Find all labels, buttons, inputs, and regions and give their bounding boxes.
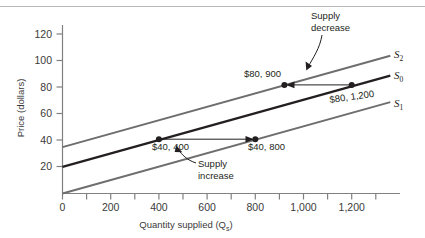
x-tick-label-400: 400: [150, 201, 168, 213]
y-tick-label-20: 20: [40, 160, 52, 172]
curve-S0: [63, 76, 391, 167]
curve-label-S2: S2: [394, 48, 404, 63]
data-point-label-40-400: $40, 400: [152, 141, 189, 152]
y-ticks: [57, 34, 63, 167]
y-tick-label-100: 100: [34, 54, 52, 66]
annotation-supply-decrease-line2: decrease: [311, 22, 350, 33]
y-tick-label-60: 60: [40, 107, 52, 119]
y-tick-label-40: 40: [40, 134, 52, 146]
annotation-supply-increase-line2: increase: [198, 170, 234, 181]
y-tick-label-120: 120: [34, 28, 52, 40]
x-axis-title: Quantity supplied (Qs): [139, 219, 232, 232]
x-ticks-major: [63, 194, 352, 200]
annotation-supply-decrease-arrowhead: [306, 62, 312, 71]
annotation-supply-decrease-arrow: [308, 35, 322, 67]
x-tick-label-600: 600: [198, 201, 216, 213]
supply-curve-figure: 20 40 60 80 100 120 0 200 400 600: [0, 0, 425, 238]
x-tick-label-1000: 1,000: [290, 201, 316, 213]
chart-canvas: 20 40 60 80 100 120 0 200 400 600: [0, 0, 425, 238]
annotation-supply-increase-line1: Supply: [198, 158, 227, 169]
x-axis-title-close: ): [229, 219, 232, 230]
curve-label-S0: S0: [394, 69, 404, 84]
data-point-80-1200: [349, 82, 355, 88]
curve-label-S1-sub: 1: [400, 103, 404, 112]
data-point-label-40-800: $40, 800: [248, 141, 285, 152]
annotation-supply-decrease-line1: Supply: [311, 10, 340, 21]
y-axis-title: Price (dollars): [15, 79, 26, 138]
data-point-label-80-900: $80, 900: [244, 68, 281, 79]
x-axis-title-main: Quantity supplied (Q: [139, 219, 226, 230]
y-tick-label-80: 80: [40, 81, 52, 93]
data-point-80-900: [281, 82, 287, 88]
x-tick-label-800: 800: [247, 201, 265, 213]
x-tick-label-0: 0: [60, 201, 66, 213]
x-tick-label-200: 200: [102, 201, 120, 213]
curve-label-S1: S1: [394, 97, 404, 112]
x-ticks-minor: [87, 194, 376, 200]
x-tick-label-1200: 1,200: [339, 201, 365, 213]
curve-label-S2-sub: 2: [400, 54, 404, 63]
curve-label-S0-sub: 0: [400, 75, 404, 84]
